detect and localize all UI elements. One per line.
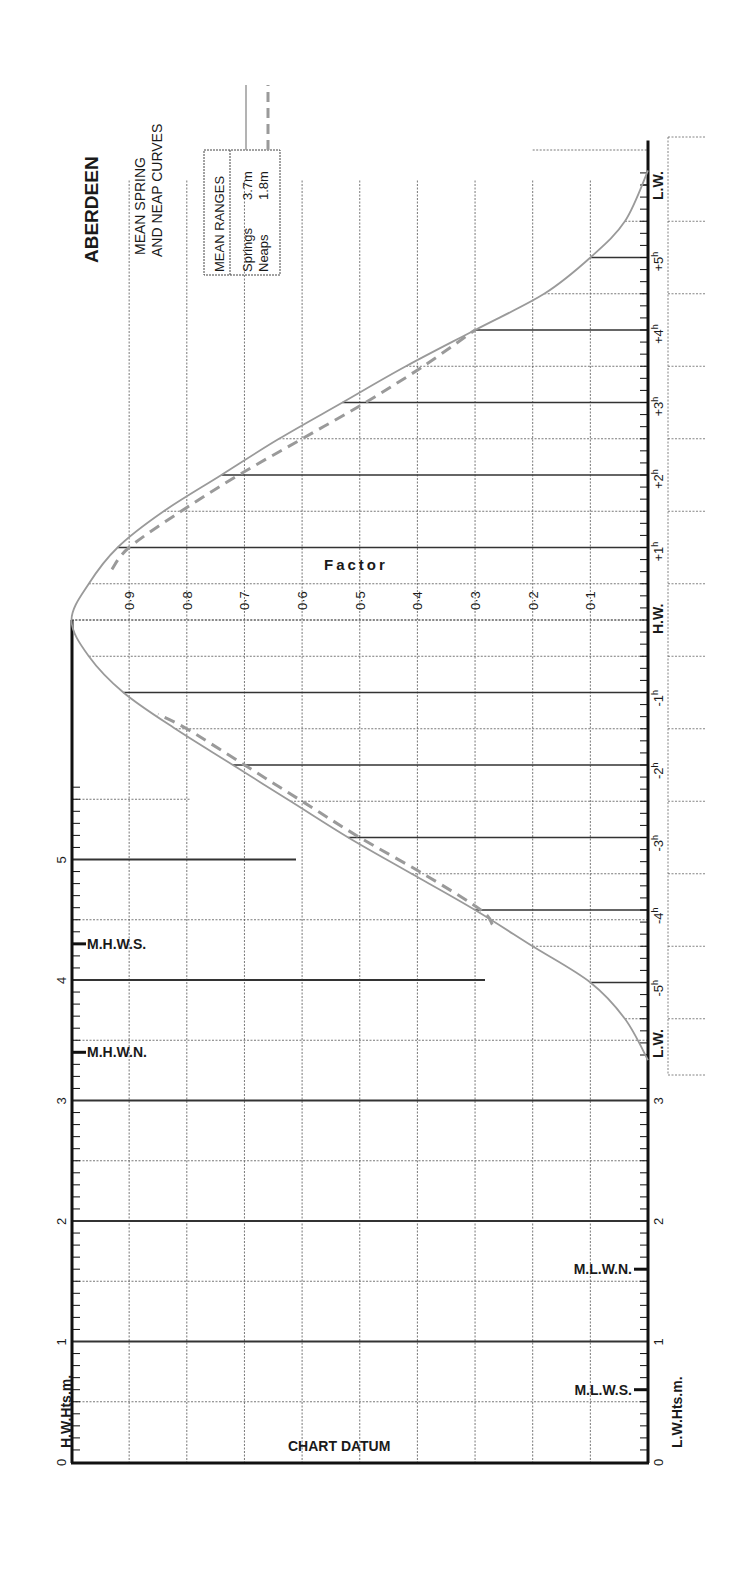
time-tick-label: -3h — [650, 835, 666, 852]
time-tick-label: L.W. — [650, 1029, 666, 1058]
right-frame — [668, 137, 705, 1075]
hw-height-tick-label: 2 — [54, 1218, 69, 1225]
lw-marker-label: M.L.W.S. — [574, 1382, 632, 1398]
tidal-curve-chart: 0·10·20·30·40·50·60·70·80·9L.W.-5h-4h-3h… — [0, 0, 749, 1583]
factor-tick-label: 0·1 — [583, 591, 598, 610]
chart-datum-label: CHART DATUM — [288, 1438, 390, 1454]
time-tick-label: -1h — [650, 690, 666, 707]
time-tick-label: L.W. — [650, 171, 666, 200]
time-tick-label: +1h — [650, 542, 666, 562]
factor-grid — [72, 150, 649, 1462]
factor-tick-label: 0·3 — [468, 591, 483, 610]
legend: MEAN RANGES Springs 3.7m Neaps 1.8m — [204, 85, 280, 275]
time-tick-label: H.W. — [650, 604, 666, 634]
lw-height-tick-label: 3 — [651, 1097, 666, 1104]
time-tick-label: +2h — [650, 469, 666, 489]
chart-subtitle-line2: AND NEAP CURVES — [149, 124, 165, 257]
hw-marker-label: M.H.W.S. — [87, 936, 146, 952]
factor-tick-label: 0·8 — [180, 591, 195, 610]
hw-axis-label: H.W.Hts.m. — [58, 1375, 74, 1448]
hw-height-tick-label: 4 — [54, 977, 69, 984]
chart-title: ABERDEEN — [81, 156, 102, 263]
hw-height-tick-label: 1 — [54, 1338, 69, 1345]
legend-springs-value: 3.7m — [240, 171, 255, 200]
hw-marker-label: M.H.W.N. — [87, 1044, 147, 1060]
legend-neaps-value: 1.8m — [256, 171, 271, 200]
lw-marker-label: M.L.W.N. — [574, 1261, 632, 1277]
time-tick-label: -5h — [650, 980, 666, 997]
lw-height-tick-label: 1 — [651, 1338, 666, 1345]
hw-height-tick-label: 3 — [54, 1097, 69, 1104]
factor-tick-label: 0·4 — [410, 591, 425, 610]
factor-tick-label: 0·5 — [353, 591, 368, 610]
neap-curve — [158, 714, 492, 924]
factor-tick-label: 0·7 — [237, 591, 252, 610]
factor-axis-label: Factor — [324, 556, 388, 573]
factor-tick-label: 0·6 — [295, 591, 310, 610]
time-tick-label: +5h — [650, 252, 666, 272]
time-tick-label: -4h — [650, 907, 666, 924]
time-tick-label: -2h — [650, 762, 666, 779]
hw-height-tick-label: 0 — [54, 1459, 69, 1466]
factor-tick-label: 0·2 — [526, 591, 541, 610]
lw-axis-label: L.W.Hts.m. — [669, 1376, 685, 1448]
legend-neaps-name: Neaps — [256, 234, 271, 272]
chart-subtitle-line1: MEAN SPRING — [132, 157, 148, 255]
factor-tick-label: 0·9 — [122, 591, 137, 610]
time-tick-label: +4h — [650, 324, 666, 344]
hw-height-tick-label: 5 — [54, 856, 69, 863]
legend-springs-name: Springs — [240, 227, 255, 272]
lw-height-tick-label: 2 — [651, 1218, 666, 1225]
legend-header: MEAN RANGES — [212, 176, 227, 272]
time-tick-label: +3h — [650, 397, 666, 417]
lw-height-tick-label: 0 — [651, 1459, 666, 1466]
